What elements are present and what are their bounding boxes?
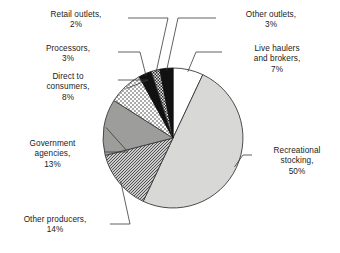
leader-line-retail-outlets <box>128 18 168 72</box>
slice-label-government-agencies: Government agencies, 13% <box>0 139 105 170</box>
slice-label-processors: Processors, 3% <box>18 44 118 65</box>
leader-line-live-haulers <box>188 52 222 72</box>
slice-label-retail-outlets: Retail outlets, 2% <box>24 10 128 31</box>
pie-slices <box>103 68 243 208</box>
slice-label-other-outlets: Other outlets, 3% <box>216 10 326 31</box>
slice-label-direct-to-consumers: Direct to consumers, 8% <box>18 72 118 103</box>
slice-label-other-producers: Other producers, 14% <box>0 215 110 236</box>
leader-line-processors <box>118 52 146 76</box>
slice-label-live-haulers: Live haulers and brokers, 7% <box>222 44 332 75</box>
pie-chart: Retail outlets, 2% Processors, 3% Direct… <box>0 0 340 253</box>
slice-label-recreational-stocking: Recreational stocking, 50% <box>254 146 340 177</box>
